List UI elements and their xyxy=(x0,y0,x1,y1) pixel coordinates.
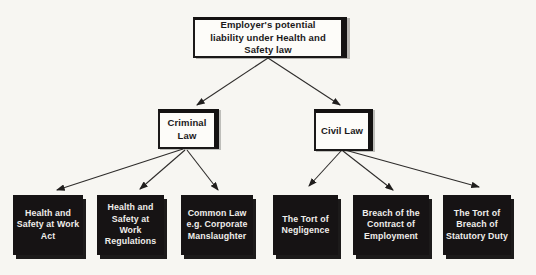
connector-root-criminal xyxy=(197,58,268,105)
connector-civil-leaf5 xyxy=(345,150,479,187)
root-box-label: Employer's potential liability under Hea… xyxy=(203,19,333,56)
branch-box-criminal-law: Criminal Law xyxy=(158,109,219,149)
branch-box-civil-law: Civil Law xyxy=(314,109,373,151)
leaf-box-breach-contract-employment: Breach of the Contract of Employment xyxy=(353,195,429,255)
leaf-box-health-safety-work-act: Health and Safety at Work Act xyxy=(13,195,83,255)
leaf-box-tort-breach-statutory-duty: The Tort of Breach of Statutory Duty xyxy=(443,195,511,255)
connector-criminal-leaf2 xyxy=(187,150,218,190)
connector-root-civil xyxy=(268,58,340,105)
leaf-label: The Tort of Breach of Statutory Duty xyxy=(446,208,508,242)
connector-civil-leaf4 xyxy=(343,151,393,190)
connector-criminal-leaf1 xyxy=(140,150,185,189)
leaf-label: The Tort of Negligence xyxy=(276,214,335,237)
root-box-employer-liability: Employer's potential liability under Hea… xyxy=(193,17,347,58)
leaf-label: Health and Safety at Work Regulations xyxy=(100,202,161,248)
leaf-label: Breach of the Contract of Employment xyxy=(356,208,426,242)
connector-criminal-leaf0 xyxy=(57,149,183,190)
liability-diagram: Employer's potential liability under Hea… xyxy=(0,0,536,275)
connector-civil-leaf3 xyxy=(309,151,341,186)
criminal-law-label: Criminal Law xyxy=(164,117,210,143)
leaf-label: Health and Safety at Work Act xyxy=(16,208,80,242)
leaf-label: Common Law e.g. Corporate Manslaughter xyxy=(184,208,250,242)
leaf-box-health-safety-work-regulations: Health and Safety at Work Regulations xyxy=(97,195,164,255)
leaf-box-common-law-corporate-manslaughter: Common Law e.g. Corporate Manslaughter xyxy=(181,195,253,255)
leaf-box-tort-of-negligence: The Tort of Negligence xyxy=(273,195,338,255)
civil-law-label: Civil Law xyxy=(321,125,363,138)
